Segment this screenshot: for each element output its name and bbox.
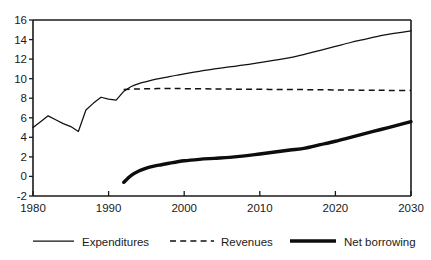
chart-legend: Expenditures Revenues Net borrowing (33, 236, 416, 248)
y-tick-label: 0 (21, 170, 27, 182)
y-tick-label: -2 (17, 190, 27, 202)
legend-item-revenues: Revenues (170, 236, 273, 248)
y-tick-label: 2 (21, 151, 27, 163)
x-tick-label: 1980 (20, 202, 46, 214)
x-axis-tick-labels: 1980 1990 2000 2010 2020 2030 (20, 202, 424, 214)
x-tick-label: 2030 (398, 202, 424, 214)
y-tick-label: 4 (21, 131, 28, 143)
line-chart: 16 14 12 10 8 6 4 2 0 -2 (0, 0, 431, 260)
x-tick-label: 2010 (247, 202, 273, 214)
x-tick-label: 2020 (323, 202, 349, 214)
legend-label-revenues: Revenues (221, 236, 273, 248)
y-tick-label: 16 (14, 14, 27, 26)
y-tick-label: 14 (14, 34, 27, 46)
data-series-group (33, 31, 411, 183)
y-axis-tick-labels: 16 14 12 10 8 6 4 2 0 -2 (14, 14, 27, 202)
legend-item-net-borrowing: Net borrowing (290, 236, 416, 248)
x-tick-label: 1990 (96, 202, 122, 214)
y-tick-label: 12 (14, 53, 27, 65)
legend-label-expenditures: Expenditures (82, 236, 149, 248)
chart-container: 16 14 12 10 8 6 4 2 0 -2 (0, 0, 431, 260)
series-line-revenues (124, 88, 411, 90)
x-tick-label: 2000 (171, 202, 197, 214)
y-tick-label: 8 (21, 92, 27, 104)
series-line-net-borrowing (124, 122, 411, 183)
legend-item-expenditures: Expenditures (33, 236, 149, 248)
legend-label-net-borrowing: Net borrowing (344, 236, 416, 248)
y-tick-label: 10 (14, 73, 27, 85)
series-line-expenditures (33, 31, 411, 132)
axis-spines (33, 20, 411, 196)
y-tick-label: 6 (21, 112, 27, 124)
